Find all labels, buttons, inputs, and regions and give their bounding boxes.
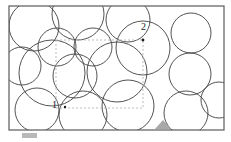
marker-dot-2 [142, 39, 145, 42]
circle-packing-canvas [0, 0, 231, 142]
scale-bar [22, 133, 37, 138]
marker-dot-1 [64, 106, 66, 108]
figure-root: 1 2 [0, 0, 231, 142]
marker-label-2: 2 [141, 22, 146, 32]
figure-background [0, 0, 231, 142]
marker-label-1: 1 [52, 100, 57, 110]
